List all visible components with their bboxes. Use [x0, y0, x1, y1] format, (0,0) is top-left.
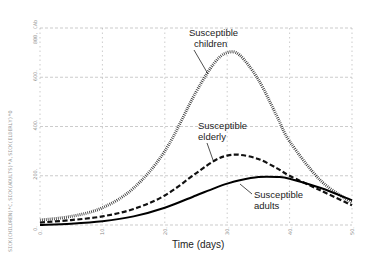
svg-text:Susceptible: Susceptible [198, 120, 247, 131]
y-axis-label: SICK(CHILDREN)*C,SICK(ADULTS)*A,SICK(ELD… [7, 111, 13, 252]
arrow-elderly-icon [207, 143, 213, 160]
y-top-label: 800, CAb [32, 20, 38, 44]
arrow-children-icon [194, 50, 208, 74]
x-axis-label: Time (days) [172, 239, 224, 250]
annotation-elderly: Susceptible elderly [198, 120, 247, 160]
x-tick-label: 20. [162, 227, 168, 235]
svg-text:Susceptible: Susceptible [254, 189, 303, 200]
annotation-children: Susceptible children [189, 27, 238, 74]
svg-text:adults: adults [254, 200, 280, 211]
y-tick-label: 200. [32, 168, 38, 180]
annotation-adults: Susceptible adults [240, 184, 303, 211]
y-axis-ticks: 200.400.600.0. [32, 70, 38, 231]
y-tick-label: 0. [32, 226, 38, 231]
x-tick-label: 10. [99, 227, 105, 235]
x-tick-label: 40. [287, 227, 293, 235]
y-tick-label: 400. [32, 119, 38, 131]
svg-text:elderly: elderly [198, 131, 226, 142]
svg-text:Susceptible: Susceptible [189, 27, 238, 38]
susceptible-elderly-line [40, 155, 352, 223]
svg-text:children: children [194, 38, 227, 49]
arrow-adults-icon [240, 184, 252, 194]
x-axis-ticks: 0.10.20.30.40.50. [37, 227, 355, 235]
y-tick-label: 600. [32, 70, 38, 82]
x-tick-label: 50. [349, 227, 355, 235]
series-curves [40, 52, 352, 225]
x-tick-label: 30. [224, 227, 230, 235]
epidemic-line-chart: 0.10.20.30.40.50. 200.400.600.0. 800, CA… [0, 0, 372, 264]
